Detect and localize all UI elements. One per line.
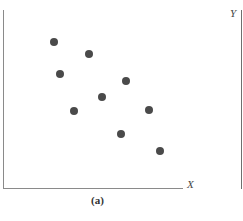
data-point xyxy=(50,38,58,46)
left-axis-line xyxy=(3,10,4,188)
data-point xyxy=(156,147,164,155)
scatter-figure: Y X (a) xyxy=(0,0,243,221)
x-axis-label: X xyxy=(187,178,194,190)
x-axis-line xyxy=(3,188,183,189)
data-point xyxy=(85,50,93,58)
y-axis-label: Y xyxy=(230,7,236,19)
data-point xyxy=(117,130,125,138)
data-point xyxy=(98,93,106,101)
data-point xyxy=(122,77,130,85)
data-point xyxy=(70,107,78,115)
data-point xyxy=(56,70,64,78)
y-axis-line xyxy=(241,10,242,189)
data-point xyxy=(145,106,153,114)
figure-caption: (a) xyxy=(91,194,104,206)
